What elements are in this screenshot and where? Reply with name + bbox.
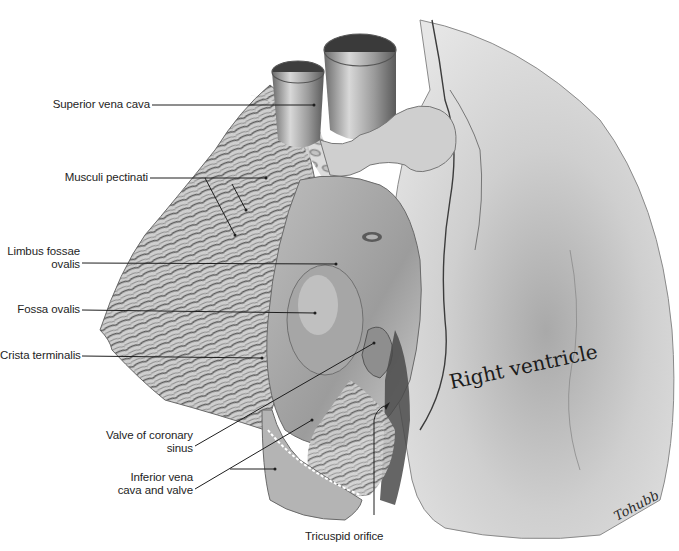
label-inferior-vena-cava-and-valve: Inferior vena cava and valve (90, 471, 193, 497)
label-text-line-2: sinus (90, 442, 193, 455)
label-text: Crista terminalis (0, 349, 81, 361)
label-valve-of-coronary-sinus: Valve of coronary sinus (90, 429, 193, 455)
label-text-line-2: ovalis (0, 258, 80, 271)
anatomical-illustration: Superior vena cava Musculi pectinati Lim… (0, 0, 679, 551)
label-text: Fossa ovalis (17, 303, 80, 315)
label-limbus-fossae-ovalis: Limbus fossae ovalis (0, 245, 80, 271)
label-text-line-1: Inferior vena (90, 471, 193, 484)
label-text: Tricuspid orifice (305, 530, 383, 542)
label-musculi-pectinati: Musculi pectinati (40, 171, 148, 184)
label-text-line-1: Valve of coronary (90, 429, 193, 442)
label-text: Musculi pectinati (65, 171, 148, 183)
heart-drawing (0, 0, 679, 551)
label-text-line-1: Limbus fossae (0, 245, 80, 258)
label-text-line-2: cava and valve (90, 484, 193, 497)
label-tricuspid-orifice: Tricuspid orifice (305, 530, 383, 543)
label-fossa-ovalis: Fossa ovalis (0, 303, 80, 316)
label-superior-vena-cava: Superior vena cava (40, 98, 150, 111)
label-text: Superior vena cava (53, 98, 150, 110)
label-crista-terminalis: Crista terminalis (0, 349, 80, 362)
